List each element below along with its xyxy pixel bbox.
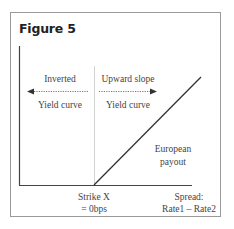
inverted-label: Inverted bbox=[30, 73, 90, 85]
strike-label-2: = 0bps bbox=[64, 203, 124, 215]
upward-label: Upward slope bbox=[96, 73, 160, 85]
spread-label-1: Spread: bbox=[158, 191, 220, 203]
left-arrow-icon bbox=[27, 89, 34, 95]
payout-label: payout bbox=[143, 156, 203, 168]
european-label: European bbox=[143, 143, 203, 155]
upward-yield-label: Yield curve bbox=[96, 99, 160, 111]
right-arrow-icon bbox=[150, 89, 157, 95]
payout-line bbox=[94, 77, 201, 185]
strike-label-1: Strike X bbox=[64, 191, 124, 203]
inverted-yield-label: Yield curve bbox=[30, 99, 90, 111]
spread-label-2: Rate1 – Rate2 bbox=[156, 203, 222, 215]
